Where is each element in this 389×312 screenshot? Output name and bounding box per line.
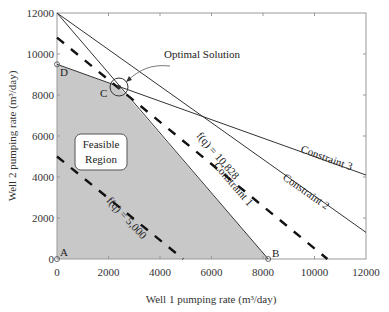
optimal-solution-label: Optimal Solution [164,48,241,60]
y-axis-label: Well 2 pumping rate (m³/day) [6,70,19,201]
svg-text:6000: 6000 [201,266,224,278]
svg-text:4000: 4000 [32,171,55,183]
svg-text:10000: 10000 [27,48,55,60]
point-b-label: B [272,247,279,259]
svg-text:12000: 12000 [27,7,55,19]
lp-chart: A B C D Optimal Solution Feasible Region… [0,0,389,312]
feasible-label-line2: Region [85,153,117,165]
point-c-label: C [100,87,107,99]
x-tick-labels: 0 2000 4000 6000 8000 10000 12000 [54,266,380,278]
point-a-label: A [60,246,68,258]
feasible-label-line1: Feasible [83,138,120,150]
svg-text:10000: 10000 [301,266,329,278]
x-axis-label: Well 1 pumping rate (m³/day) [146,293,277,306]
svg-text:6000: 6000 [32,130,55,142]
svg-text:0: 0 [49,253,55,265]
y-tick-labels: 0 2000 4000 6000 8000 10000 12000 [27,7,55,265]
point-d-label: D [60,66,68,78]
svg-text:2000: 2000 [32,212,55,224]
svg-text:8000: 8000 [32,89,55,101]
point-c-marker [117,85,121,89]
constraint-2-label: Constraint 2 [281,171,332,212]
constraint-3-label: Constraint 3 [299,143,354,173]
svg-text:8000: 8000 [252,266,275,278]
svg-text:0: 0 [54,266,60,278]
svg-text:12000: 12000 [352,266,380,278]
arrow-head-icon [126,76,132,82]
svg-text:4000: 4000 [149,266,172,278]
svg-text:2000: 2000 [98,266,121,278]
